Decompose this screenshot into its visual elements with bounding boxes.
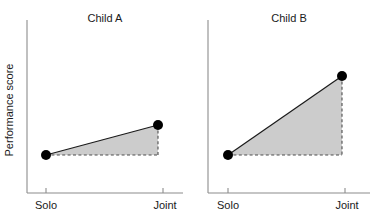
data-point-joint-child-a	[153, 120, 163, 130]
panel-child-a: Child A Solo Joint	[27, 12, 183, 211]
y-axis-title: Performance score	[3, 64, 15, 157]
panel-child-b: Child B Solo Joint	[208, 12, 370, 211]
performance-score-figure: Child A Solo Joint Performance score	[0, 0, 378, 221]
x-tick-label-joint-child-b: Joint	[335, 199, 358, 211]
data-point-solo-child-b	[223, 150, 233, 160]
x-tick-label-joint-child-a: Joint	[153, 199, 176, 211]
figure-container: Child A Solo Joint Performance score	[0, 0, 378, 221]
x-tick-label-solo-child-a: Solo	[35, 199, 57, 211]
data-point-solo-child-a	[41, 150, 51, 160]
panel-title-child-a: Child A	[88, 12, 124, 24]
data-point-joint-child-b	[337, 71, 347, 81]
x-tick-label-solo-child-b: Solo	[217, 199, 239, 211]
panel-title-child-b: Child B	[271, 12, 306, 24]
